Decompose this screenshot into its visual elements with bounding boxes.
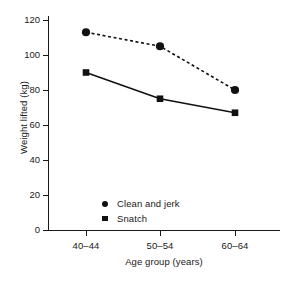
circle-marker-icon xyxy=(98,201,112,207)
legend-label: Clean and jerk xyxy=(112,198,180,209)
chart-figure: 020406080100120 40–4450–5460–64 Age grou… xyxy=(0,0,286,290)
data-point-circle xyxy=(156,42,164,50)
square-marker-icon xyxy=(98,216,112,222)
data-point-circle xyxy=(82,28,90,36)
legend-entry: Clean and jerk xyxy=(98,196,180,211)
data-point-circle xyxy=(231,86,239,94)
data-point-square xyxy=(157,95,164,102)
legend-entry: Snatch xyxy=(98,211,180,226)
data-point-square xyxy=(83,69,90,76)
series-line-circle xyxy=(86,32,235,90)
series-plot xyxy=(0,0,286,290)
chart-legend: Clean and jerkSnatch xyxy=(98,196,180,226)
data-point-square xyxy=(232,109,239,116)
legend-label: Snatch xyxy=(112,213,147,224)
series-line-square xyxy=(86,73,235,113)
